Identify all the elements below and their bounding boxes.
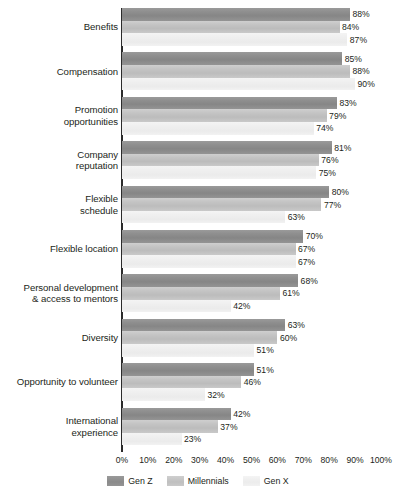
bar-group: Compensation85%88%90%: [0, 52, 396, 90]
legend-label: Gen X: [264, 476, 289, 486]
bar-gen-z: [122, 52, 342, 65]
bar-value-label: 51%: [254, 344, 274, 356]
bar-row: 74%: [122, 122, 396, 135]
bar-row: 23%: [122, 433, 396, 446]
bar-gen-x: [122, 78, 355, 91]
bar-row: 63%: [122, 319, 396, 332]
category-label: Flexibleschedule: [0, 193, 118, 216]
bar-row: 46%: [122, 376, 396, 389]
bar-group: Companyreputation81%76%75%: [0, 141, 396, 179]
bar-gen-x: [122, 388, 205, 401]
bar-millennials: [122, 420, 218, 433]
bar-group: Benefits88%84%87%: [0, 8, 396, 46]
bar-value-label: 81%: [332, 142, 352, 154]
bar-gen-z: [122, 141, 332, 154]
bar-millennials: [122, 198, 321, 211]
bar-millennials: [122, 376, 241, 389]
bar-gen-z: [122, 319, 285, 332]
category-label: Diversity: [0, 332, 118, 343]
bars: 80%77%63%: [122, 186, 396, 224]
category-label-line: Personal development: [0, 282, 118, 293]
category-label-line: reputation: [0, 160, 118, 171]
bar-chart: Benefits88%84%87%Compensation85%88%90%Pr…: [0, 0, 396, 503]
bar-row: 60%: [122, 331, 396, 344]
category-label-line: & access to mentors: [0, 293, 118, 304]
bar-row: 83%: [122, 97, 396, 110]
bar-value-label: 84%: [340, 21, 360, 33]
x-axis-ticks: 0%10%20%30%40%50%60%70%80%90%100%: [0, 452, 396, 470]
bar-value-label: 63%: [285, 211, 305, 223]
bar-value-label: 70%: [303, 230, 323, 242]
category-label: Companyreputation: [0, 149, 118, 172]
bar-row: 63%: [122, 211, 396, 224]
bar-row: 88%: [122, 65, 396, 78]
category-label-line: Flexible: [0, 193, 118, 204]
legend-label: Gen Z: [128, 476, 152, 486]
bar-value-label: 67%: [296, 256, 316, 268]
bar-value-label: 75%: [316, 167, 336, 179]
legend-item-gen-z[interactable]: Gen Z: [107, 476, 152, 487]
bar-gen-x: [122, 122, 314, 135]
category-label-line: Compensation: [0, 66, 118, 77]
bar-gen-x: [122, 166, 316, 179]
bar-row: 81%: [122, 141, 396, 154]
bar-group: Personal development& access to mentors6…: [0, 274, 396, 312]
legend-item-millennials[interactable]: Millennials: [167, 476, 229, 487]
category-label-line: schedule: [0, 205, 118, 216]
bar-value-label: 88%: [350, 65, 370, 77]
bar-row: 42%: [122, 300, 396, 313]
category-label: Compensation: [0, 66, 118, 77]
bar-value-label: 67%: [296, 243, 316, 255]
bars: 88%84%87%: [122, 8, 396, 46]
bar-value-label: 32%: [205, 389, 225, 401]
category-label: Personal development& access to mentors: [0, 282, 118, 305]
bars: 42%37%23%: [122, 408, 396, 446]
legend-swatch-icon: [107, 476, 124, 487]
bar-value-label: 60%: [277, 332, 297, 344]
bar-gen-x: [122, 255, 296, 268]
bar-row: 51%: [122, 344, 396, 357]
chart-legend: Gen ZMillennialsGen X: [0, 473, 396, 489]
bar-row: 84%: [122, 21, 396, 34]
bars: 70%67%67%: [122, 230, 396, 268]
plot-area: Benefits88%84%87%Compensation85%88%90%Pr…: [0, 0, 396, 452]
legend-item-gen-x[interactable]: Gen X: [243, 476, 289, 487]
bar-group: Flexible location70%67%67%: [0, 230, 396, 268]
bar-value-label: 61%: [280, 287, 300, 299]
bar-value-label: 46%: [241, 376, 261, 388]
bar-value-label: 87%: [347, 34, 367, 46]
bar-gen-x: [122, 33, 347, 46]
bar-value-label: 85%: [342, 53, 362, 65]
bar-row: 75%: [122, 166, 396, 179]
bar-value-label: 88%: [350, 8, 370, 20]
bar-gen-z: [122, 8, 350, 21]
category-label-line: Promotion: [0, 104, 118, 115]
bar-row: 87%: [122, 33, 396, 46]
bar-value-label: 83%: [337, 97, 357, 109]
bar-millennials: [122, 243, 296, 256]
bar-row: 90%: [122, 78, 396, 91]
bar-value-label: 76%: [319, 154, 339, 166]
category-label: Promotionopportunities: [0, 104, 118, 127]
bar-row: 88%: [122, 8, 396, 21]
bar-row: 42%: [122, 408, 396, 421]
bar-gen-x: [122, 433, 182, 446]
category-label: Internationalexperience: [0, 415, 118, 438]
category-label-line: opportunities: [0, 116, 118, 127]
category-label-line: Diversity: [0, 332, 118, 343]
category-label-line: International: [0, 415, 118, 426]
bars: 63%60%51%: [122, 319, 396, 357]
category-label: Opportunity to volunteer: [0, 376, 118, 387]
category-label-line: Company: [0, 149, 118, 160]
bar-value-label: 42%: [231, 300, 251, 312]
legend-swatch-icon: [167, 476, 184, 487]
bar-row: 85%: [122, 52, 396, 65]
bar-millennials: [122, 109, 327, 122]
bar-gen-z: [122, 363, 254, 376]
category-label-line: Flexible location: [0, 243, 118, 254]
bar-gen-z: [122, 186, 329, 199]
category-label-line: Opportunity to volunteer: [0, 376, 118, 387]
bar-millennials: [122, 65, 350, 78]
bar-value-label: 42%: [231, 408, 251, 420]
bar-millennials: [122, 287, 280, 300]
